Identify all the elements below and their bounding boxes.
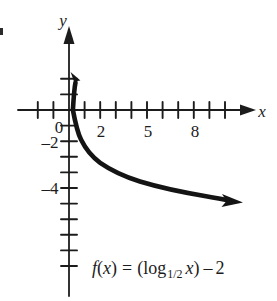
graph-canvas: x y 0 2 5 8 –2 –4 f(x)=(log1/2x)–2	[0, 0, 277, 301]
y-tick-label-neg2: –2	[41, 133, 59, 152]
math-graph-figure: x y 0 2 5 8 –2 –4 f(x)=(log1/2x)–2	[0, 0, 277, 301]
equation-log-arg: x	[185, 258, 194, 278]
equation-log: log	[143, 258, 166, 278]
equation-lhs-var: x	[102, 258, 111, 278]
equation-annotation: f(x)=(log1/2x)–2	[92, 258, 225, 281]
x-axis-arrowhead	[240, 105, 256, 116]
equation-constant: 2	[216, 258, 225, 278]
x-axis-label: x	[257, 102, 266, 121]
scan-artifact	[0, 28, 3, 35]
equation-close-paren: )	[194, 258, 200, 279]
y-axis-label: y	[57, 11, 67, 30]
equation-minus: –	[203, 258, 214, 278]
curve-upper-arrowhead	[71, 72, 81, 82]
equation-equals: =	[122, 258, 132, 278]
y-tick-label-neg4: –4	[41, 179, 60, 198]
equation-base: 1/2	[167, 267, 182, 281]
function-curve-upper	[73, 83, 76, 111]
x-tick-label-5: 5	[144, 122, 153, 141]
equation-text: f(x)=(log1/2x)–2	[92, 258, 225, 281]
equation-paren-close: )	[111, 258, 117, 279]
x-tick-label-2: 2	[97, 122, 106, 141]
y-axis	[64, 26, 75, 296]
x-tick-label-8: 8	[191, 122, 200, 141]
